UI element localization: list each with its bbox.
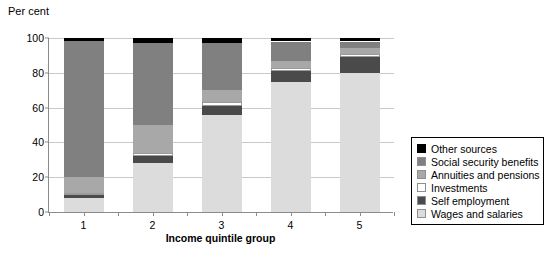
- y-axis-title: Per cent: [8, 5, 49, 18]
- legend-item[interactable]: Annuities and pensions: [417, 168, 539, 181]
- x-tick-mark: [153, 212, 154, 216]
- legend: Other sourcesSocial security benefitsAnn…: [411, 137, 544, 225]
- bar-segment[interactable]: [202, 90, 242, 102]
- bar-stack[interactable]: [64, 38, 104, 212]
- bar-segment[interactable]: [133, 153, 173, 156]
- x-tick-mark: [118, 212, 119, 216]
- bar-series-group: [49, 38, 394, 212]
- bar-segment[interactable]: [133, 163, 173, 212]
- bar-segment[interactable]: [271, 68, 311, 71]
- bar-segment[interactable]: [271, 42, 311, 61]
- x-tick-mark: [325, 212, 326, 216]
- bar-segment[interactable]: [64, 193, 104, 195]
- legend-item-label: Self employment: [431, 195, 509, 207]
- legend-swatch-icon: [417, 144, 426, 153]
- bar-segment[interactable]: [64, 177, 104, 193]
- bar-segment[interactable]: [271, 61, 311, 68]
- bar-segment[interactable]: [340, 42, 380, 49]
- y-tick-label: 80: [32, 67, 44, 78]
- bar-segment[interactable]: [340, 57, 380, 73]
- x-tick-mark: [360, 212, 361, 216]
- bar-segment[interactable]: [133, 38, 173, 43]
- legend-swatch-icon: [417, 183, 426, 192]
- x-tick-mark: [49, 212, 50, 216]
- x-tick-label: 4: [288, 219, 294, 231]
- y-tick-label: 100: [26, 33, 44, 44]
- legend-item-label: Annuities and pensions: [431, 169, 540, 181]
- legend-item[interactable]: Social security benefits: [417, 155, 539, 168]
- x-tick-label: 2: [150, 219, 156, 231]
- x-tick-mark: [291, 212, 292, 216]
- bar-segment[interactable]: [340, 48, 380, 53]
- bar-segment[interactable]: [202, 38, 242, 43]
- bar-segment[interactable]: [64, 195, 104, 198]
- x-tick-label: 1: [81, 219, 87, 231]
- legend-item[interactable]: Investments: [417, 181, 539, 194]
- y-tick-label: 60: [32, 102, 44, 113]
- legend-swatch-icon: [417, 157, 426, 166]
- x-tick-mark: [256, 212, 257, 216]
- legend-item[interactable]: Self employment: [417, 194, 539, 207]
- bar-segment[interactable]: [340, 54, 380, 57]
- plot-area: 020406080100 12345: [48, 38, 393, 213]
- bar-segment[interactable]: [202, 43, 242, 90]
- bar-segment[interactable]: [271, 71, 311, 81]
- legend-item-label: Wages and salaries: [431, 208, 523, 220]
- bar-stack[interactable]: [340, 38, 380, 212]
- legend-swatch-icon: [417, 209, 426, 218]
- y-tick-label: 0: [38, 207, 44, 218]
- legend-item-label: Other sources: [431, 143, 497, 155]
- x-tick-label: 5: [357, 219, 363, 231]
- legend-swatch-icon: [417, 196, 426, 205]
- x-axis-title: Income quintile group: [48, 232, 393, 244]
- bar-segment[interactable]: [340, 73, 380, 212]
- legend-item[interactable]: Other sources: [417, 142, 539, 155]
- y-tick-label: 20: [32, 172, 44, 183]
- x-tick-label: 3: [219, 219, 225, 231]
- x-tick-mark: [222, 212, 223, 216]
- bar-segment[interactable]: [133, 43, 173, 125]
- bar-stack[interactable]: [202, 38, 242, 212]
- chart-figure: Per cent 020406080100 12345 Income quint…: [0, 0, 552, 261]
- bar-segment[interactable]: [271, 38, 311, 41]
- bar-segment[interactable]: [64, 38, 104, 41]
- legend-item[interactable]: Wages and salaries: [417, 207, 539, 220]
- x-tick-mark: [84, 212, 85, 216]
- bar-stack[interactable]: [271, 38, 311, 212]
- bar-segment[interactable]: [202, 106, 242, 115]
- bar-segment[interactable]: [133, 125, 173, 153]
- bar-segment[interactable]: [202, 115, 242, 212]
- legend-item-label: Social security benefits: [431, 156, 538, 168]
- legend-swatch-icon: [417, 170, 426, 179]
- x-tick-mark: [394, 212, 395, 216]
- bar-segment[interactable]: [64, 198, 104, 212]
- x-tick-mark: [187, 212, 188, 216]
- bar-segment[interactable]: [64, 41, 104, 177]
- bar-stack[interactable]: [133, 38, 173, 212]
- legend-item-label: Investments: [431, 182, 488, 194]
- y-tick-label: 40: [32, 137, 44, 148]
- bar-segment[interactable]: [202, 102, 242, 105]
- bar-segment[interactable]: [133, 156, 173, 163]
- bar-segment[interactable]: [271, 82, 311, 213]
- bar-segment[interactable]: [340, 38, 380, 41]
